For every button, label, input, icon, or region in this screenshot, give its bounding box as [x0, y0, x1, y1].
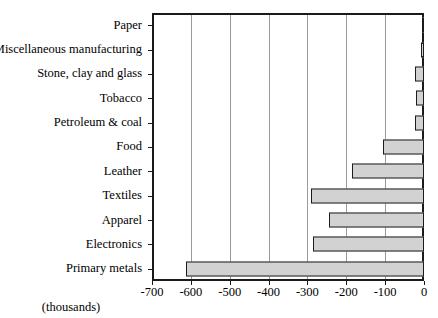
- category-tick: [148, 147, 152, 148]
- category-label: Tobacco: [0, 86, 148, 110]
- category-label: Electronics: [0, 232, 148, 256]
- category-tick: [148, 220, 152, 221]
- bar: [416, 91, 424, 106]
- category-tick: [148, 196, 152, 197]
- category-tick: [148, 269, 152, 270]
- bar: [415, 66, 424, 81]
- category-tick: [148, 50, 152, 51]
- bar: [421, 42, 424, 57]
- bar-chart: PaperMiscellaneous manufacturingStone, c…: [0, 0, 438, 318]
- axis-title: (thousands): [0, 300, 438, 315]
- category-tick: [148, 171, 152, 172]
- value-tick-label: -700: [141, 285, 164, 300]
- value-tick-label: -600: [179, 285, 202, 300]
- category-tick: [148, 25, 152, 26]
- bar: [383, 139, 424, 154]
- axis-title-text: (thousands): [42, 300, 100, 314]
- category-label: Food: [0, 135, 148, 159]
- category-label: Textiles: [0, 184, 148, 208]
- value-tick-label: -500: [218, 285, 241, 300]
- bar-row: [152, 86, 424, 110]
- bar-row: [152, 159, 424, 183]
- bar: [329, 213, 424, 228]
- bar-row: [152, 257, 424, 281]
- bar: [415, 115, 424, 130]
- value-tick-label: 0: [421, 285, 427, 300]
- bar-row: [152, 110, 424, 134]
- category-label: Primary metals: [0, 257, 148, 281]
- bar-row: [152, 135, 424, 159]
- category-tick: [148, 123, 152, 124]
- bar-row: [152, 184, 424, 208]
- bar-row: [152, 208, 424, 232]
- category-label: Petroleum & coal: [0, 110, 148, 134]
- value-tick-label: -200: [335, 285, 358, 300]
- bar: [422, 18, 424, 33]
- bar: [311, 188, 424, 203]
- bar-row: [152, 232, 424, 256]
- category-label: Apparel: [0, 208, 148, 232]
- category-label: Leather: [0, 159, 148, 183]
- category-tick: [148, 98, 152, 99]
- value-tick-label: -100: [374, 285, 397, 300]
- value-tick-label: -300: [296, 285, 319, 300]
- bar-series: [152, 13, 424, 281]
- bar: [186, 261, 424, 276]
- bar-row: [152, 37, 424, 61]
- bar-row: [152, 13, 424, 37]
- bar: [313, 237, 424, 252]
- category-label: Miscellaneous manufacturing: [0, 37, 148, 61]
- category-tick: [148, 244, 152, 245]
- category-tick: [148, 74, 152, 75]
- bar-row: [152, 62, 424, 86]
- category-axis-labels: PaperMiscellaneous manufacturingStone, c…: [0, 13, 148, 281]
- value-tick-label: -400: [257, 285, 280, 300]
- bar: [352, 164, 424, 179]
- category-label: Paper: [0, 13, 148, 37]
- category-label: Stone, clay and glass: [0, 62, 148, 86]
